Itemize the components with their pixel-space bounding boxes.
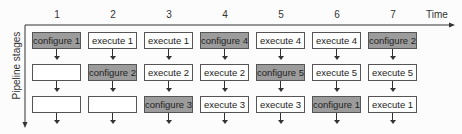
down-arrow-icon (280, 49, 281, 57)
stage-box: execute 5 (368, 64, 417, 81)
stage-box: execute 4 (312, 32, 361, 49)
down-arrow-icon (392, 81, 393, 89)
down-arrow-icon (56, 49, 57, 57)
down-arrow-icon (112, 81, 113, 89)
down-arrow-icon (56, 81, 57, 89)
x-axis-label: Time (426, 9, 448, 20)
time-arrow-icon (449, 23, 455, 28)
stage-box: execute 1 (368, 96, 417, 113)
stage-box: configure 1 (32, 32, 81, 49)
column-number: 4 (215, 9, 235, 20)
stage-box: execute 1 (88, 32, 137, 49)
down-arrow-icon (336, 81, 337, 89)
stage-box: execute 5 (312, 64, 361, 81)
down-arrow-icon (112, 113, 113, 121)
stage-box: configure 2 (88, 64, 137, 81)
stage-box: configure 1 (312, 96, 361, 113)
stage-box: execute 3 (256, 96, 305, 113)
down-arrow-icon (224, 113, 225, 121)
column-number: 2 (103, 9, 123, 20)
stage-box: execute 1 (144, 32, 193, 49)
stage-box (88, 96, 137, 113)
column-number: 6 (327, 9, 347, 20)
column-number: 3 (159, 9, 179, 20)
y-axis-label: Pipeline stages (11, 40, 22, 100)
down-arrow-icon (224, 49, 225, 57)
down-arrow-icon (56, 113, 57, 121)
down-arrow-icon (280, 113, 281, 121)
column-number: 1 (47, 9, 67, 20)
stage-box: configure 2 (368, 32, 417, 49)
stage-box: execute 4 (256, 32, 305, 49)
down-arrow-icon (392, 49, 393, 57)
stages-arrow-icon (23, 122, 28, 128)
down-arrow-icon (336, 113, 337, 121)
down-arrow-icon (280, 81, 281, 89)
stage-box (32, 96, 81, 113)
stage-box: configure 4 (200, 32, 249, 49)
down-arrow-icon (336, 49, 337, 57)
column-number: 7 (383, 9, 403, 20)
stage-box (32, 64, 81, 81)
down-arrow-icon (168, 113, 169, 121)
stage-box: execute 3 (200, 96, 249, 113)
stage-box: execute 2 (144, 64, 193, 81)
stage-box: execute 2 (200, 64, 249, 81)
down-arrow-icon (168, 81, 169, 89)
down-arrow-icon (168, 49, 169, 57)
column-number: 5 (271, 9, 291, 20)
stage-box: configure 5 (256, 64, 305, 81)
down-arrow-icon (392, 113, 393, 121)
down-arrow-icon (224, 81, 225, 89)
stage-box: configure 3 (144, 96, 193, 113)
down-arrow-icon (112, 49, 113, 57)
